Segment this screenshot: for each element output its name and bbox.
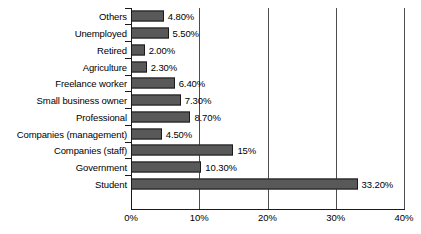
bar-value-label: 5.50% xyxy=(173,28,199,39)
bar-row: Companies (management)4.50% xyxy=(0,125,421,142)
bar xyxy=(131,61,147,72)
bar-value-label: 4.50% xyxy=(166,128,192,139)
category-label: Student xyxy=(95,178,127,189)
x-axis-line xyxy=(131,209,405,210)
category-label: Retired xyxy=(97,44,127,55)
bar-row: Companies (staff)15% xyxy=(0,142,421,159)
bar-row: Student33.20% xyxy=(0,176,421,193)
bar-value-label: 2.00% xyxy=(149,44,175,55)
bar-value-label: 2.30% xyxy=(151,61,177,72)
bar xyxy=(131,44,145,55)
bar-value-label: 10.30% xyxy=(205,162,237,173)
bar-value-label: 15% xyxy=(237,145,256,156)
category-label: Freelance worker xyxy=(55,78,127,89)
category-label: Professional xyxy=(76,111,127,122)
category-label: Government xyxy=(76,162,127,173)
bar xyxy=(131,162,201,173)
x-axis-tick-label: 30% xyxy=(326,212,345,224)
bar-row: Others4.80% xyxy=(0,8,421,25)
bar xyxy=(131,111,190,122)
bar-row: Agriculture2.30% xyxy=(0,58,421,75)
bar-row: Retired2.00% xyxy=(0,42,421,59)
category-label: Small business owner xyxy=(37,95,127,106)
category-label: Agriculture xyxy=(83,61,127,72)
bar xyxy=(131,95,181,106)
bar xyxy=(131,78,175,89)
bar-rows: Others4.80%Unemployed5.50%Retired2.00%Ag… xyxy=(0,8,421,209)
bar-row: Government10.30% xyxy=(0,159,421,176)
bar xyxy=(131,128,162,139)
x-axis-tick-label: 40% xyxy=(394,212,413,224)
bar xyxy=(131,28,169,39)
bar-value-label: 7.30% xyxy=(185,95,211,106)
x-axis-tick-label: 20% xyxy=(258,212,277,224)
x-axis-tick-label: 0% xyxy=(124,212,138,224)
category-label: Unemployed xyxy=(75,28,127,39)
bar-value-label: 8.70% xyxy=(194,111,220,122)
bar-value-label: 4.80% xyxy=(168,11,194,22)
category-label: Companies (management) xyxy=(17,128,127,139)
bar xyxy=(131,178,358,189)
bar-value-label: 6.40% xyxy=(179,78,205,89)
bar-row: Unemployed5.50% xyxy=(0,25,421,42)
bar-chart: Others4.80%Unemployed5.50%Retired2.00%Ag… xyxy=(0,0,421,234)
bar-row: Small business owner7.30% xyxy=(0,92,421,109)
bar-row: Freelance worker6.40% xyxy=(0,75,421,92)
bar xyxy=(131,11,164,22)
bar-row: Professional8.70% xyxy=(0,109,421,126)
bar xyxy=(131,145,233,156)
category-label: Others xyxy=(99,11,127,22)
category-label: Companies (staff) xyxy=(54,145,127,156)
x-axis-tick-label: 10% xyxy=(190,212,209,224)
bar-value-label: 33.20% xyxy=(362,178,394,189)
x-axis-tick-labels: 0%10%20%30%40% xyxy=(0,212,421,228)
y-axis-line xyxy=(131,8,132,210)
